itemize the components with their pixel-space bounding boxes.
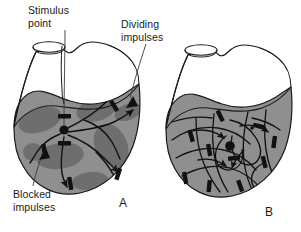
- panel-b-stimulus-point: [225, 141, 235, 151]
- label-dividing-impulses: Dividing impulses: [121, 18, 163, 43]
- panel-b-heart: [166, 45, 292, 197]
- caption-panel-a: A: [119, 196, 127, 210]
- caption-panel-b: B: [265, 205, 273, 219]
- panel-a-heart: [14, 30, 146, 194]
- panel-a-stimulus-point: [59, 125, 68, 134]
- label-blocked-impulses: Blocked impulses: [13, 188, 55, 213]
- panel-b-reentry-loop-node: [250, 126, 254, 130]
- panel-a-aortic-ring: [33, 42, 65, 54]
- panel-b-aortic-ring: [185, 45, 217, 57]
- label-stimulus-point: Stimulus point: [28, 4, 69, 29]
- figure-container: Stimulus point Dividing impulses Blocked…: [0, 0, 301, 232]
